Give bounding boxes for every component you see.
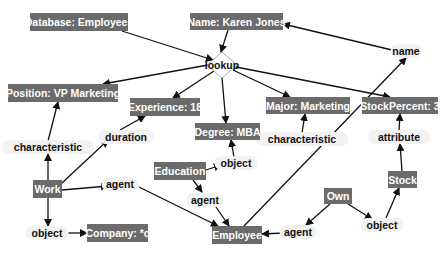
relation-label: object bbox=[32, 227, 63, 239]
concept-label: Position: VP Marketing bbox=[6, 87, 120, 99]
concept-label: StockPercent: 3 bbox=[360, 100, 440, 112]
relation-duration[interactable]: duration bbox=[98, 130, 154, 144]
concept-stock[interactable]: Stock bbox=[388, 171, 417, 188]
edge-arrow bbox=[348, 204, 372, 219]
actor-label: lookup bbox=[205, 59, 239, 71]
concept-own[interactable]: Own bbox=[324, 188, 352, 204]
relation-label: name bbox=[392, 45, 420, 57]
concept-label: Experience: 18 bbox=[128, 101, 202, 113]
concept-label: Degree: MBA bbox=[195, 126, 261, 138]
edge-arrow bbox=[283, 24, 392, 50]
concept-work[interactable]: Work bbox=[33, 180, 62, 198]
concept-label: Company: *c bbox=[85, 227, 149, 239]
edge-arrow bbox=[386, 188, 399, 218]
edge-arrow bbox=[193, 180, 202, 192]
relation-label: characteristic bbox=[268, 133, 336, 145]
edge-arrow bbox=[48, 102, 58, 141]
relation-label: object bbox=[221, 157, 252, 169]
concept-label: Own bbox=[327, 190, 350, 202]
relation-characteristic[interactable]: characteristic bbox=[256, 132, 349, 146]
edge-arrow bbox=[306, 204, 330, 225]
edge-arrow bbox=[62, 186, 108, 190]
edge-arrow bbox=[216, 207, 229, 226]
relation-attribute[interactable]: attribute bbox=[368, 130, 430, 144]
concept-label: Education bbox=[155, 165, 206, 177]
concept-database[interactable]: Database: Employees bbox=[25, 13, 134, 31]
relation-label: agent bbox=[106, 178, 135, 190]
concept-name_karen[interactable]: Name: Karen Jones bbox=[187, 13, 285, 30]
edge-arrow bbox=[399, 114, 400, 131]
relation-label: duration bbox=[105, 131, 147, 143]
concept-stockpercent[interactable]: StockPercent: 3 bbox=[360, 97, 440, 114]
concept-label: Stock bbox=[388, 174, 417, 186]
concept-education[interactable]: Education bbox=[154, 162, 206, 180]
relation-label: characteristic bbox=[14, 141, 82, 153]
concept-label: Database: Employees bbox=[25, 16, 134, 28]
relation-agent[interactable]: agent bbox=[280, 225, 317, 239]
edge-arrow bbox=[120, 116, 145, 130]
concept-degree[interactable]: Degree: MBA bbox=[195, 123, 261, 140]
edge-arrow bbox=[173, 71, 214, 98]
relation-label: agent bbox=[191, 194, 220, 206]
concept-label: Employee bbox=[212, 229, 262, 241]
conceptual-graph-diagram: lookup namecharacteristicdurationcharact… bbox=[0, 0, 448, 253]
relation-object[interactable]: object bbox=[25, 226, 68, 240]
edge-arrow bbox=[233, 70, 290, 97]
edge-arrow bbox=[400, 144, 402, 171]
relation-object[interactable]: object bbox=[214, 156, 257, 170]
concept-company[interactable]: Company: *c bbox=[85, 224, 149, 242]
concept-position[interactable]: Position: VP Marketing bbox=[6, 84, 120, 102]
relation-label: agent bbox=[284, 226, 313, 238]
relation-label: attribute bbox=[378, 131, 420, 143]
edge-arrow bbox=[103, 65, 208, 84]
edge-arrow bbox=[122, 31, 213, 60]
relation-characteristic[interactable]: characteristic bbox=[2, 140, 95, 154]
concept-label: Major: Marketing bbox=[266, 100, 350, 112]
edge-arrow bbox=[302, 114, 305, 133]
edge-arrow bbox=[231, 140, 234, 157]
relations-layer: namecharacteristicdurationcharacteristic… bbox=[2, 44, 430, 240]
concept-experience[interactable]: Experience: 18 bbox=[128, 98, 202, 116]
concept-major[interactable]: Major: Marketing bbox=[266, 97, 350, 114]
relation-agent[interactable]: agent bbox=[102, 177, 139, 191]
edge-arrow bbox=[221, 30, 228, 52]
edge-arrow bbox=[222, 78, 226, 123]
concept-label: Work bbox=[34, 183, 60, 195]
concept-label: Name: Karen Jones bbox=[187, 16, 285, 28]
relation-agent[interactable]: agent bbox=[187, 193, 224, 207]
relation-label: object bbox=[367, 219, 398, 231]
relation-object[interactable]: object bbox=[360, 218, 403, 232]
concept-employee[interactable]: Employee bbox=[212, 226, 262, 244]
relation-name[interactable]: name bbox=[391, 44, 422, 58]
